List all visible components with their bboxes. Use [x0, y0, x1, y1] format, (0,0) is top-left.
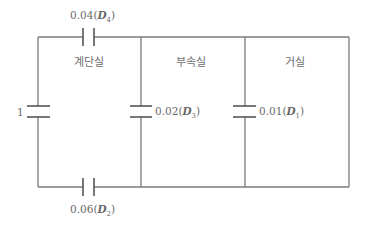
- label-d1-symbol: D: [287, 105, 296, 117]
- label-d1-sub: 1: [296, 112, 300, 120]
- label-d4: 0.04(D4): [70, 10, 115, 24]
- capacitor-d2-icon: [83, 178, 94, 196]
- label-d2-symbol: D: [98, 203, 107, 215]
- label-d3-symbol: D: [183, 105, 192, 117]
- label-d3-sub: 3: [192, 112, 196, 120]
- label-d4-symbol: D: [98, 9, 107, 21]
- label-d1: 0.01(D1): [259, 106, 304, 120]
- room-label-living: 거실: [285, 57, 305, 68]
- capacitor-d1-icon: [233, 106, 256, 117]
- room-label-vestibule: 부속실: [176, 57, 206, 68]
- label-d2-value: 0.06: [70, 203, 93, 215]
- label-d1-value: 0.01: [259, 105, 282, 117]
- capacitor-source-icon: [27, 106, 50, 117]
- capacitor-d4-icon: [83, 28, 94, 46]
- capacitor-d3-icon: [130, 106, 152, 117]
- label-d3-value: 0.02: [155, 105, 178, 117]
- room-label-stairwell: 계단실: [74, 57, 104, 68]
- label-d3: 0.02(D3): [155, 106, 200, 120]
- label-d4-value: 0.04: [70, 9, 93, 21]
- label-d4-sub: 4: [107, 16, 111, 24]
- label-source: 1: [17, 107, 24, 118]
- label-d2-sub: 2: [107, 210, 111, 218]
- label-d2: 0.06(D2): [70, 204, 115, 218]
